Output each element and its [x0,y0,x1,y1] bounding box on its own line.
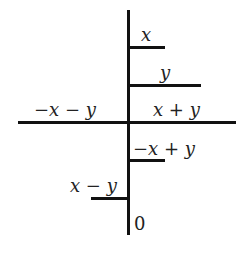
label-y: y [160,64,170,82]
branch-x [128,46,165,49]
label-neg-x-neg-y: −x − y [34,101,96,119]
diagram: x y −x − y x + y −x + y x − y 0 [0,0,246,258]
horizontal-axis [18,121,236,124]
label-x-plus-y: x + y [153,101,200,119]
label-x: x [141,26,151,44]
label-neg-x-plus-y: −x + y [133,140,195,158]
branch-x-minus-y [91,197,128,200]
branch-neg-x-plus-y [128,159,165,162]
branch-y [128,84,201,87]
label-zero: 0 [134,215,145,233]
label-x-minus-y: x − y [70,177,117,195]
